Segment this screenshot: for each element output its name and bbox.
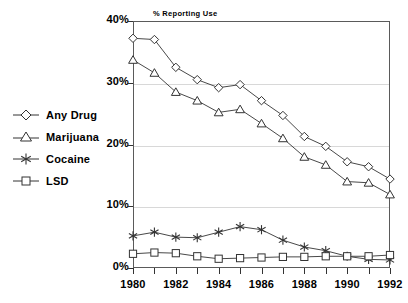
data-point: [344, 253, 351, 260]
x-axis-tick: [347, 268, 348, 274]
data-point: [386, 251, 393, 258]
data-point: [386, 175, 394, 183]
data-point: [129, 231, 137, 240]
data-point: [321, 161, 330, 169]
data-point: [215, 228, 223, 237]
data-point: [257, 119, 266, 127]
series-lsd: [129, 249, 393, 262]
data-point: [236, 80, 244, 88]
y-axis-tick-label: 40%: [83, 13, 129, 25]
data-point: [172, 250, 179, 257]
y-axis-tick-label: 20%: [83, 137, 129, 149]
data-point: [322, 142, 330, 150]
data-point: [258, 254, 265, 261]
series-any-drug: [129, 34, 394, 183]
x-axis-tick: [240, 268, 241, 274]
data-point: [364, 163, 372, 171]
data-point: [194, 253, 201, 260]
data-point: [193, 96, 202, 104]
x-axis-tick: [283, 268, 284, 274]
chart-root: Any Drug Marijuana: [0, 0, 408, 303]
y-axis-tick-label: 10%: [83, 198, 129, 210]
data-point: [215, 255, 222, 262]
y-axis-tick-label: 0%: [83, 260, 129, 272]
data-point: [300, 242, 308, 251]
y-axis: 0%10%20%30%40%: [79, 0, 129, 303]
asterisk-marker-icon: [12, 151, 40, 167]
x-axis-tick: [197, 268, 198, 274]
data-point: [365, 253, 372, 260]
data-point: [150, 228, 158, 237]
series-marijuana: [129, 56, 395, 198]
data-point: [386, 190, 395, 198]
x-axis-tick: [219, 268, 220, 274]
x-axis-tick-label: 1990: [324, 278, 370, 290]
data-point: [236, 255, 243, 262]
data-point: [301, 253, 308, 260]
data-point: [279, 236, 287, 245]
plot-axis-title: % Reporting Use: [153, 9, 218, 18]
data-point: [279, 134, 288, 142]
data-point: [150, 69, 159, 77]
data-point: [193, 75, 201, 83]
x-axis-tick: [369, 268, 370, 274]
x-axis-tick-label: 1984: [196, 278, 242, 290]
x-axis-tick-label: 1988: [281, 278, 327, 290]
data-point: [129, 56, 138, 64]
x-axis-tick-label: 1992: [367, 278, 408, 290]
x-axis-tick-label: 1986: [239, 278, 285, 290]
y-axis-tick: [127, 145, 133, 146]
x-axis-tick-label: 1980: [110, 278, 156, 290]
y-axis-tick: [127, 206, 133, 207]
data-point: [129, 250, 136, 257]
data-point: [151, 249, 158, 256]
square-marker-icon: [12, 173, 40, 189]
data-point: [172, 63, 180, 71]
y-axis-tick: [127, 83, 133, 84]
legend-label-lsd: LSD: [40, 175, 69, 187]
x-axis-tick: [390, 268, 391, 274]
data-point: [343, 158, 351, 166]
data-point: [150, 35, 158, 43]
x-axis-tick: [326, 268, 327, 274]
y-axis-tick-label: 30%: [83, 75, 129, 87]
diamond-marker-icon: [12, 107, 40, 123]
x-axis-tick: [133, 268, 134, 274]
data-point: [343, 177, 352, 185]
x-axis-tick: [262, 268, 263, 274]
x-axis-tick-label: 1982: [153, 278, 199, 290]
data-point: [214, 83, 222, 91]
data-point: [236, 105, 245, 113]
x-axis-tick: [304, 268, 305, 274]
x-axis-tick: [154, 268, 155, 274]
series-line: [133, 38, 390, 179]
data-point: [279, 253, 286, 260]
series-layer: [133, 21, 390, 268]
triangle-marker-icon: [12, 129, 40, 145]
data-point: [322, 253, 329, 260]
y-axis-tick: [127, 21, 133, 22]
data-point: [129, 34, 137, 42]
data-point: [257, 96, 265, 104]
x-axis-tick: [176, 268, 177, 274]
